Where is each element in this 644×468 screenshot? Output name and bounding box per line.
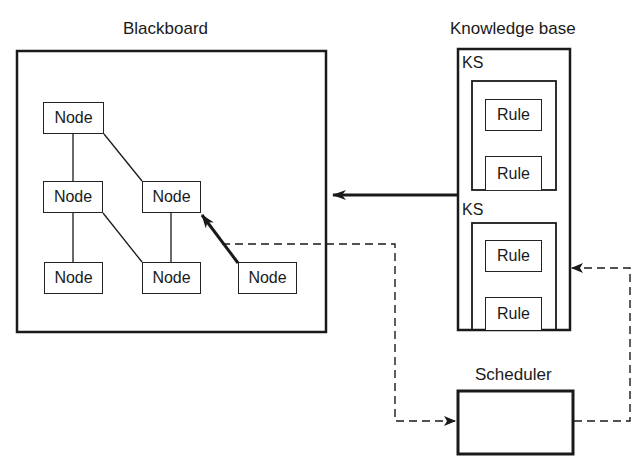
ks1-label: KS [462,54,483,72]
node-5[interactable]: Node [142,262,201,294]
node-3[interactable]: Node [142,181,201,213]
scheduler-box[interactable] [458,391,573,454]
node-2[interactable]: Node [43,181,103,213]
edge-n1-n3 [104,134,142,181]
dashed-scheduler-to-kb [572,268,630,421]
ks2-rule-1[interactable]: Rule [485,240,542,272]
ks2-rule-2[interactable]: Rule [485,297,542,330]
knowledge-base-title: Knowledge base [450,19,576,39]
edge-n2-n5 [103,213,142,262]
arrow-n6-n3 [202,215,238,263]
node-4[interactable]: Node [44,262,103,294]
ks1-rule-2[interactable]: Rule [485,156,542,190]
ks2-label: KS [462,201,483,219]
blackboard-title: Blackboard [123,19,208,39]
scheduler-title: Scheduler [475,365,552,385]
node-6[interactable]: Node [238,262,297,294]
node-1[interactable]: Node [43,102,104,134]
ks1-rule-1[interactable]: Rule [485,99,542,131]
